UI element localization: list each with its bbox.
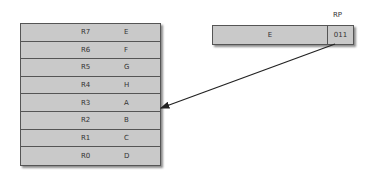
pointer-arrow [0, 0, 375, 187]
